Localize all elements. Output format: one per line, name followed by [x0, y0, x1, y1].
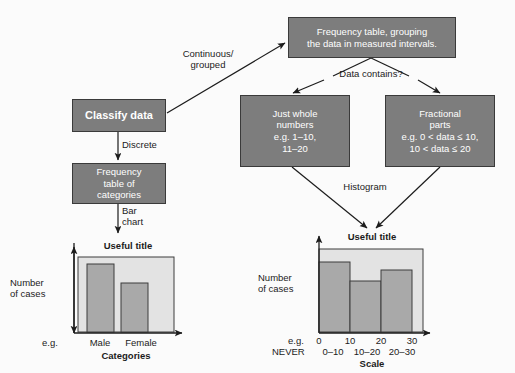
box-frequency-table-grouped[interactable]: Frequency table, grouping the data in me… [288, 17, 456, 58]
edge-label-bar-chart: Bar chart [122, 205, 162, 228]
edge-fractional-to-histogram [376, 167, 440, 228]
bar-chart-tick-female: Female [117, 337, 165, 348]
box-just-whole-numbers[interactable]: Just whole numbers e.g. 1–10, 11–20 [240, 95, 350, 167]
bar-chart-axis-note: e.g. [42, 337, 72, 348]
histogram-bin-10-20: 10–20 [349, 346, 385, 357]
bar-male [87, 264, 114, 332]
histogram-bin-0-10: 0–10 [317, 346, 349, 357]
bar-20-30 [381, 270, 412, 332]
histogram-tick-20: 20 [371, 335, 391, 346]
edge-datacontains-left [293, 80, 324, 93]
edge-label-histogram: Histogram [330, 181, 400, 192]
histogram-ylabel: Number of cases [258, 272, 320, 295]
bar-chart-ylabel: Number of cases [10, 277, 72, 300]
box-frequency-table-categories[interactable]: Frequency table of categories [72, 163, 166, 204]
box-fractional-parts[interactable]: Fractional parts e.g. 0 < data ≤ 10, 10 … [385, 95, 495, 167]
edge-label-data-contains: Data contains? [320, 68, 422, 79]
bar-female [121, 283, 148, 332]
bar-chart-graphic [74, 243, 182, 333]
histogram-bin-20-30: 20–30 [384, 346, 420, 357]
histogram-title: Useful title [322, 231, 422, 242]
histogram-xlabel: Scale [322, 358, 422, 369]
histogram-never-label: NEVER [272, 346, 318, 357]
bar-0-10 [319, 262, 350, 332]
diagram-canvas: Frequency table, grouping the data in me… [0, 0, 515, 373]
bar-chart-tick-male: Male [79, 337, 121, 348]
histogram-graphic [319, 236, 430, 333]
bar-chart-xlabel: Categories [78, 350, 174, 361]
box-classify-data-label: Classify data [81, 109, 157, 122]
bar-10-20 [350, 281, 381, 332]
histogram-tick-0: 0 [309, 335, 329, 346]
box-fractional-parts-label: Fractional parts e.g. 0 < data ≤ 10, 10 … [398, 108, 483, 154]
histogram-tick-10: 10 [340, 335, 360, 346]
edge-label-continuous-grouped: Continuous/ grouped [168, 48, 248, 71]
histogram-tick-30: 30 [402, 335, 422, 346]
box-frequency-table-categories-label: Frequency table of categories [93, 166, 146, 201]
edge-label-discrete: Discrete [122, 139, 184, 150]
edge-datacontains-right [418, 80, 440, 93]
box-classify-data[interactable]: Classify data [72, 99, 166, 132]
bar-chart-title: Useful title [78, 240, 178, 251]
box-frequency-table-grouped-label: Frequency table, grouping the data in me… [303, 26, 441, 49]
box-just-whole-numbers-label: Just whole numbers e.g. 1–10, 11–20 [269, 108, 322, 154]
edge-wholenumbers-to-histogram [292, 167, 367, 228]
